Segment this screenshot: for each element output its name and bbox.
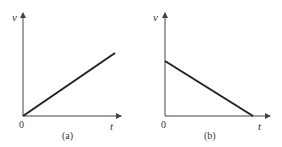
origin-label: 0	[161, 119, 166, 130]
velocity-time-diagrams: v t 0 (a) v t 0 (b)	[0, 0, 282, 147]
y-axis-label: v	[153, 11, 158, 23]
caption: (a)	[62, 130, 73, 142]
x-axis-label: t	[110, 120, 114, 132]
velocity-line	[23, 53, 115, 116]
velocity-line	[165, 61, 253, 116]
x-axis-label: t	[258, 120, 262, 132]
panel-a: v t 0 (a)	[12, 11, 121, 142]
caption: (b)	[204, 130, 216, 142]
panel-b: v t 0 (b)	[153, 11, 270, 142]
y-axis-label: v	[12, 11, 17, 23]
origin-label: 0	[19, 119, 24, 130]
